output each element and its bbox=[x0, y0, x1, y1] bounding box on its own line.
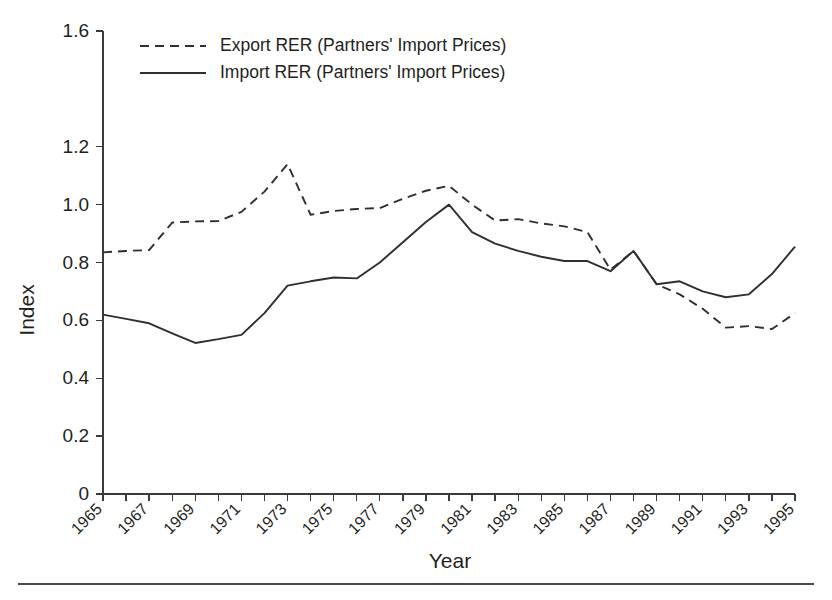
x-tick-label: 1989 bbox=[622, 500, 659, 537]
legend-label-2: Import RER (Partners' Import Prices) bbox=[220, 62, 505, 82]
y-axis-tick-labels: 00.20.40.60.81.01.21.6 bbox=[63, 20, 90, 504]
x-tick-label: 1973 bbox=[252, 500, 289, 537]
chart-axes bbox=[96, 31, 795, 501]
y-axis-title: Index bbox=[15, 284, 38, 336]
x-tick-label: 1983 bbox=[483, 500, 520, 537]
x-tick-label: 1969 bbox=[160, 500, 197, 537]
y-tick-label: 1.6 bbox=[63, 20, 89, 41]
chart-legend: Export RER (Partners' Import Prices)Impo… bbox=[140, 35, 506, 82]
footer-divider bbox=[18, 583, 814, 585]
x-tick-label: 1977 bbox=[345, 500, 382, 537]
y-tick-label: 0.8 bbox=[63, 252, 89, 273]
x-axis-title: Year bbox=[429, 549, 471, 572]
x-tick-label: 1965 bbox=[68, 500, 105, 537]
x-tick-label: 1981 bbox=[437, 500, 474, 537]
y-tick-label: 0 bbox=[78, 483, 89, 504]
line-chart: 00.20.40.60.81.01.21.6 19651967196919711… bbox=[0, 0, 832, 600]
x-tick-label: 1985 bbox=[529, 500, 566, 537]
y-tick-label: 1.0 bbox=[63, 194, 89, 215]
x-tick-label: 1967 bbox=[114, 500, 151, 537]
axis-frame bbox=[103, 31, 795, 494]
x-tick-label: 1993 bbox=[714, 500, 751, 537]
chart-figure: 00.20.40.60.81.01.21.6 19651967196919711… bbox=[0, 0, 832, 600]
x-tick-label: 1987 bbox=[575, 500, 612, 537]
y-tick-label: 0.2 bbox=[63, 425, 89, 446]
x-tick-label: 1971 bbox=[206, 500, 243, 537]
y-tick-label: 1.2 bbox=[63, 136, 89, 157]
y-tick-label: 0.4 bbox=[63, 367, 90, 388]
x-tick-label: 1995 bbox=[760, 500, 797, 537]
series-line-1 bbox=[103, 164, 795, 329]
x-tick-label: 1975 bbox=[299, 500, 336, 537]
x-tick-label: 1991 bbox=[668, 500, 705, 537]
series-line-2 bbox=[103, 205, 795, 343]
legend-label-1: Export RER (Partners' Import Prices) bbox=[220, 35, 506, 55]
x-axis-tick-labels: 1965196719691971197319751977197919811983… bbox=[68, 500, 797, 537]
chart-series-group bbox=[103, 164, 795, 343]
y-tick-label: 0.6 bbox=[63, 309, 89, 330]
x-tick-label: 1979 bbox=[391, 500, 428, 537]
